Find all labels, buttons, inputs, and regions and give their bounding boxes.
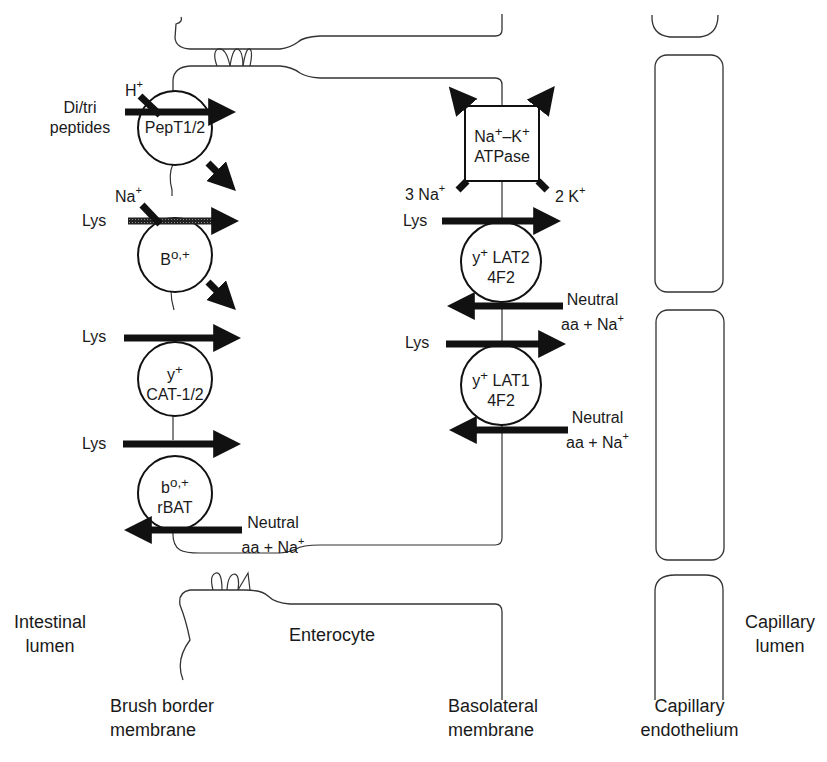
neutral-aa-label-lat1: Neutral aa + Na+: [560, 408, 635, 453]
brush-border-membrane: [170, 100, 502, 553]
neutral-aa-label-brush: Neutral aa + Na+: [238, 513, 308, 558]
na-ion-label: Na+: [115, 182, 142, 207]
h-ion-label: H+: [125, 76, 143, 101]
transporter-circles-brush: [138, 91, 212, 530]
pept12-label: PepT1/2: [135, 118, 215, 138]
peptide-substrate-label: Di/tri peptides: [45, 98, 115, 138]
lys-label-5: Lys: [405, 333, 429, 353]
top-cell-outline: [173, 14, 502, 100]
y-plus-cat-label: y+ CAT-1/2: [135, 360, 215, 405]
basolateral-label: Basolateral membrane: [448, 694, 538, 742]
two-k-label: 2 K+: [555, 182, 585, 207]
neutral-aa-label-lat2: Neutral aa + Na+: [555, 290, 630, 335]
three-na-label: 3 Na+: [405, 180, 445, 205]
intestinal-lumen-label: Intestinal lumen: [5, 610, 95, 658]
na-k-atpase-label: Na+–K+ ATPase: [462, 122, 542, 167]
capillary-lumen-label: Capillary lumen: [735, 610, 825, 658]
capillary-endothelium-label: Capillary endothelium: [632, 694, 747, 742]
enterocyte-transport-diagram: [0, 0, 827, 762]
enterocyte-label: Enterocyte: [289, 623, 375, 647]
brush-border-label: Brush border membrane: [110, 694, 214, 742]
capillary-endothelium-cells: [652, 15, 724, 700]
lys-label-4: Lys: [403, 211, 427, 231]
lys-label-2: Lys: [82, 327, 106, 347]
lys-label-3: Lys: [82, 434, 106, 454]
y-plus-lat1-label: y+ LAT1 4F2: [461, 366, 541, 411]
lys-label-1: Lys: [82, 211, 106, 231]
y-plus-lat2-label: y+ LAT2 4F2: [461, 243, 541, 288]
b0-plus-label: Bo,+: [135, 245, 215, 270]
tight-junction-top: [215, 49, 252, 66]
b0-rbat-label: bo,+ rBAT: [135, 473, 215, 518]
tight-junction-bottom: [212, 573, 250, 590]
